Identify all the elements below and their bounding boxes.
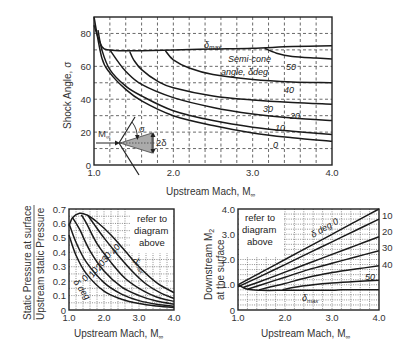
m-inf-label: M∞ [98, 128, 110, 140]
refer-note-line1: refer to [245, 212, 275, 223]
br-curve-label-40: 40 [382, 259, 393, 270]
sigma-label: σ [139, 123, 145, 134]
curve-label-40: 40 [284, 85, 294, 95]
semi-cone-label-line1: Semi-cone [228, 54, 271, 64]
data-series [94, 17, 332, 141]
refer-note-line1: refer to [137, 213, 167, 224]
x-tick-label: 2.0 [278, 312, 291, 323]
y-tick-label: 0.2 [53, 276, 66, 287]
pressure-ratio-chart: 1.02.03.04.000.10.20.30.40.50.60.7 refer… [22, 204, 181, 341]
top-x-axis-label: Upstream Mach, M∞ [166, 186, 255, 198]
y-tick-label: 4.0 [222, 204, 235, 215]
y-tick-label: 0 [61, 305, 66, 316]
br-x-axis-label: Upstream Mach, M∞ [261, 328, 350, 340]
x-tick-label: 4.0 [372, 312, 385, 323]
y-tick-label: 0.4 [53, 247, 66, 258]
y-tick-label: 80 [80, 28, 91, 39]
br-curve-label-10: 10 [382, 210, 393, 221]
y-tick-label: 0.6 [53, 218, 66, 229]
curve-label-10: 10 [275, 123, 285, 133]
curve-label-0: 0 [273, 140, 278, 150]
bl-x-axis-label: Upstream Mach, M∞ [74, 328, 163, 340]
y-tick-label: 60 [80, 61, 91, 72]
series-line [94, 17, 332, 141]
curve-label-20: 20 [289, 111, 300, 121]
br-curve-label-50: 50 [365, 272, 375, 282]
y-tick-label: 0.1 [53, 290, 66, 301]
x-tick-label: 2.0 [97, 312, 110, 323]
bl-y-axis-label-denominator: Upstream static Pressure [35, 207, 46, 320]
br-curve-label-30: 30 [382, 242, 393, 253]
y-tick-label: 3.0 [222, 229, 235, 240]
x-tick-label: 3.0 [246, 167, 259, 178]
figure: 1.02.03.04.0020406080 M∞ σ 2δ δmax Semi-… [0, 0, 410, 357]
two-delta-label: 2δ [156, 137, 167, 148]
bl-delta-deg-label: δ deg [71, 277, 92, 301]
cone-diagram: M∞ σ 2δ [96, 117, 167, 175]
shock-angle-chart: 1.02.03.04.0020406080 M∞ σ 2δ δmax Semi-… [62, 17, 339, 198]
br-y-axis-label-line2: at the surface [215, 239, 226, 300]
br-y-axis-label-line1: Downstream M2 [203, 229, 215, 300]
y-tick-label: 40 [80, 94, 91, 105]
refer-note-line3: above [139, 237, 165, 248]
top-y-axis-label: Shock Angle, σ [62, 61, 73, 129]
x-tick-label: 3.0 [325, 312, 338, 323]
refer-note-line2: diagram [134, 225, 168, 236]
y-tick-label: 0.5 [53, 232, 66, 243]
semi-cone-label-line2: angle, δdeg [221, 67, 268, 77]
curve-label-30: 30 [263, 104, 273, 114]
x-tick-label: 3.0 [132, 312, 145, 323]
y-tick-label: 0.7 [53, 204, 66, 215]
x-tick-label: 2.0 [167, 167, 180, 178]
downstream-mach-chart: 1.02.03.04.001.02.03.04.0 refer to diagr… [203, 204, 393, 341]
y-tick-label: 0 [86, 160, 91, 171]
x-tick-label: 4.0 [325, 167, 338, 178]
br-delta-deg-label: δ deg 0 [309, 216, 340, 240]
y-tick-label: 0.3 [53, 261, 66, 272]
refer-note-line2: diagram [242, 224, 276, 235]
y-tick-label: 20 [80, 127, 91, 138]
br-curve-label-20: 20 [382, 226, 393, 237]
x-tick-label: 4.0 [167, 312, 180, 323]
bl-y-axis-label-numerator: Static Pressure at surface [22, 205, 33, 320]
delta-max-label: δmax [204, 40, 222, 51]
refer-note-line3: above [247, 236, 273, 247]
y-tick-label: 0 [230, 305, 235, 316]
curve-label-50: 50 [286, 62, 296, 72]
